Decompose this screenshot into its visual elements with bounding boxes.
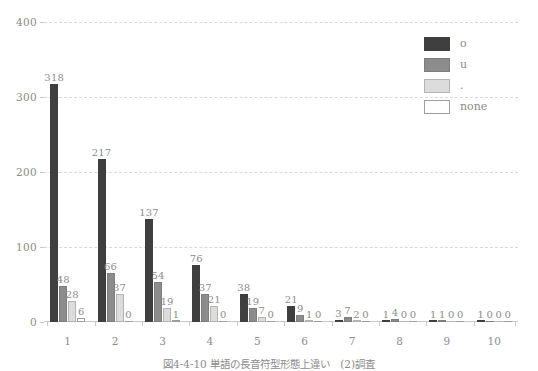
legend-swatch [424, 79, 450, 93]
bar-value-label: 7 [344, 306, 351, 316]
x-tick-label: 8 [396, 335, 403, 347]
bar-rect [77, 318, 85, 323]
legend-item[interactable]: u [424, 54, 528, 75]
bar-rect [107, 273, 115, 323]
bar[interactable]: 1 [429, 321, 437, 322]
bar-rect [125, 321, 133, 322]
bar[interactable]: 1 [477, 321, 485, 322]
bar-value-label: 1 [439, 310, 446, 320]
bar[interactable]: 0 [456, 321, 464, 322]
bar-rect [116, 294, 124, 322]
bar[interactable]: 0 [362, 321, 370, 322]
bar[interactable]: 3 [335, 320, 343, 322]
bar-value-label: 0 [457, 310, 464, 320]
bar[interactable]: 28 [68, 301, 76, 322]
legend-item[interactable]: o [424, 33, 528, 54]
bar-rect [382, 320, 390, 322]
x-group-tick [515, 322, 516, 326]
legend-label: u [460, 58, 467, 71]
bar-value-label: 1 [430, 310, 437, 320]
bar[interactable]: 7 [344, 317, 352, 322]
bar[interactable]: 0 [219, 321, 227, 322]
bar-rect [456, 321, 464, 322]
legend-swatch [424, 100, 450, 114]
bar[interactable]: 0 [504, 321, 512, 322]
bar-value-label: 0 [401, 310, 408, 320]
bar-value-label: 0 [505, 310, 512, 320]
bar-rect [172, 320, 180, 322]
y-tick-label: 400 [16, 16, 37, 28]
bar-rect [495, 321, 503, 322]
bar-value-label: 4 [392, 308, 399, 318]
bar-value-label: 48 [57, 275, 70, 285]
x-tick-label: 4 [207, 335, 214, 347]
bar[interactable]: 1 [438, 321, 446, 322]
bar-rect [98, 159, 106, 322]
bar[interactable]: 4 [391, 319, 399, 322]
bar[interactable]: 37 [116, 294, 124, 322]
bar-value-label: 3 [335, 309, 342, 319]
bar-value-label: 21 [285, 295, 298, 305]
bar[interactable]: 0 [409, 321, 417, 322]
x-tick-label: 1 [64, 335, 71, 347]
bar-rect [447, 321, 455, 322]
bar[interactable]: 21 [287, 306, 295, 322]
legend-label: o [460, 37, 467, 50]
bar[interactable]: 2 [353, 321, 361, 323]
y-tick-mark [40, 322, 44, 323]
bar[interactable]: 0 [267, 321, 275, 322]
x-group-tick [284, 322, 285, 326]
bar-value-label: 217 [92, 148, 112, 158]
bar[interactable]: 19 [163, 308, 171, 322]
bar[interactable]: 0 [495, 321, 503, 322]
bar-rect [258, 317, 266, 322]
bar[interactable]: 9 [296, 315, 304, 322]
bar[interactable]: 66 [107, 273, 115, 323]
bar-value-label: 9 [297, 304, 304, 314]
bar[interactable]: 6 [77, 318, 85, 323]
bar[interactable]: 0 [125, 321, 133, 322]
bar-rect [344, 317, 352, 322]
bar-value-label: 0 [315, 310, 322, 320]
bar-value-label: 0 [268, 310, 275, 320]
bar[interactable]: 1 [382, 321, 390, 322]
bar[interactable]: 1 [305, 321, 313, 322]
x-tick-label: 5 [254, 335, 261, 347]
bar[interactable]: 21 [210, 306, 218, 322]
y-tick-label: 100 [16, 241, 37, 253]
x-tick-label: 9 [444, 335, 451, 347]
bar-rect [486, 321, 494, 322]
x-group-tick [332, 322, 333, 326]
bar[interactable]: 0 [486, 321, 494, 322]
bar-value-label: 38 [237, 283, 250, 293]
bar[interactable]: 0 [400, 321, 408, 322]
x-group-tick [379, 322, 380, 326]
bar-rect [409, 321, 417, 322]
bar-rect [210, 306, 218, 322]
x-group-tick [237, 322, 238, 326]
bar-group: 13754191 [139, 22, 186, 322]
bar[interactable]: 318 [50, 84, 58, 323]
bar[interactable]: 19 [249, 308, 257, 322]
bar[interactable]: 1 [172, 321, 180, 322]
bar-value-label: 7 [259, 306, 266, 316]
bar-value-label: 37 [199, 283, 212, 293]
x-group-tick [189, 322, 190, 326]
bar-value-label: 76 [190, 254, 203, 264]
bar-group: 7637210 [186, 22, 233, 322]
bar[interactable]: 0 [447, 321, 455, 322]
bar-rect [353, 320, 361, 322]
bar-rect [400, 321, 408, 322]
bar-rect [362, 321, 370, 322]
x-group-tick [426, 322, 427, 326]
bar[interactable]: 7 [258, 317, 266, 322]
x-group-tick [474, 322, 475, 326]
bar[interactable]: 76 [192, 265, 200, 322]
bar-value-label: 54 [151, 271, 164, 281]
bar-rect [163, 308, 171, 322]
bar[interactable]: 217 [98, 159, 106, 322]
bar[interactable]: 0 [314, 321, 322, 322]
legend-item[interactable]: . [424, 75, 528, 96]
legend-item[interactable]: none [424, 96, 528, 117]
bar-value-label: 1 [306, 310, 313, 320]
